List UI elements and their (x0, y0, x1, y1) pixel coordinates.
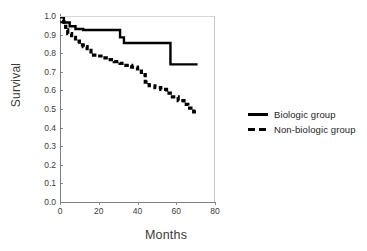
x-tick-mark (215, 202, 216, 205)
x-tick-label: 20 (84, 206, 114, 216)
legend-item-label: Non-biologic group (274, 124, 356, 135)
chart-legend: Biologic groupNon-biologic group (248, 107, 366, 137)
y-tick-label: 0.6 (30, 85, 56, 95)
y-tick-label: 0.9 (30, 30, 56, 40)
plot-right-border (214, 16, 215, 202)
survival-curves (60, 16, 215, 202)
x-tick-mark (138, 202, 139, 205)
x-tick-label: 80 (200, 206, 230, 216)
y-tick-label: 0.1 (30, 178, 56, 188)
x-tick-mark (60, 202, 61, 205)
legend-item[interactable]: Non-biologic group (248, 122, 366, 137)
y-axis-tick-labels: 0.00.10.20.30.40.50.60.70.80.91.0 (26, 16, 56, 202)
x-axis-title: Months (96, 228, 236, 242)
plot-top-border (60, 16, 215, 17)
y-tick-label: 0.3 (30, 141, 56, 151)
x-tick-label: 60 (161, 206, 191, 216)
y-tick-label: 0.7 (30, 67, 56, 77)
plot-area (60, 16, 215, 202)
x-tick-label: 40 (123, 206, 153, 216)
x-tick-mark (99, 202, 100, 205)
y-tick-label: 1.0 (30, 11, 56, 21)
x-tick-label: 0 (45, 206, 75, 216)
survival-chart-figure: Survival 0.00.10.20.30.40.50.60.70.80.91… (0, 0, 367, 251)
legend-line-dashed-icon (248, 124, 268, 135)
y-tick-label: 0.8 (30, 48, 56, 58)
y-tick-label: 0.5 (30, 104, 56, 114)
y-axis-title: Survival (9, 35, 23, 135)
y-tick-label: 0.2 (30, 160, 56, 170)
legend-line-solid-icon (248, 109, 268, 120)
legend-item-label: Biologic group (274, 109, 336, 120)
x-tick-mark (176, 202, 177, 205)
legend-item[interactable]: Biologic group (248, 107, 366, 122)
y-tick-label: 0.4 (30, 123, 56, 133)
